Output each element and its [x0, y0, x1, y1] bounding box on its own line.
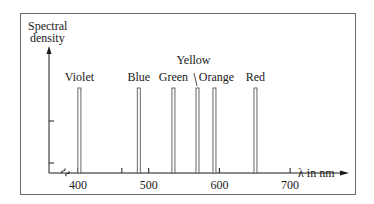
- line-label-green: Green: [159, 70, 188, 84]
- spectral-line-green: [172, 88, 175, 173]
- x-tick-label: 600: [210, 178, 228, 192]
- spectral-line-yellow: [196, 88, 199, 173]
- line-label-red: Red: [246, 70, 265, 84]
- y-axis-arrow-icon: [47, 46, 52, 54]
- spectral-lines: [78, 88, 257, 173]
- line-label-blue: Blue: [127, 70, 150, 84]
- x-tick-label: 400: [69, 178, 87, 192]
- line-label-violet: Violet: [65, 70, 95, 84]
- line-label-yellow: Yellow: [176, 53, 210, 67]
- spectral-line-violet: [78, 88, 81, 173]
- x-axis-arrow-icon: [340, 171, 349, 176]
- line-labels: VioletBlueGreenYellowOrangeRed: [65, 53, 265, 84]
- line-label-orange: Orange: [199, 70, 234, 84]
- spectral-line-blue: [137, 88, 140, 173]
- x-tick-label: 700: [281, 178, 299, 192]
- spectral-line-red: [254, 88, 257, 173]
- x-tick-label: 500: [140, 178, 158, 192]
- x-axis-label: λ in nm: [298, 166, 335, 180]
- yellow-leader-line: [194, 73, 197, 86]
- x-ticks: 400500600700: [69, 168, 299, 192]
- axis-break-icon: [61, 168, 70, 177]
- spectrum-plot: 400500600700 VioletBlueGreenYellowOrange…: [0, 0, 374, 204]
- spectral-line-orange: [213, 88, 216, 173]
- y-axis-label-line2: density: [30, 31, 65, 45]
